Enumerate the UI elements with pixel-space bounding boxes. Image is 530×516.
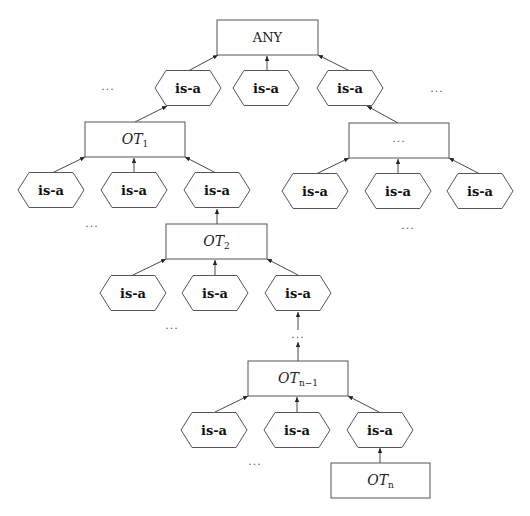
type-node-any: ANY [217,20,318,55]
is-a-relation-node: is-a [365,174,431,209]
is-a-relation-node: is-a [155,71,221,106]
type-hierarchy-diagram: ANY OT1 ... OT2 OTn−1 OTn is-ais-ais-ais… [0,0,530,516]
relation-label: is-a [285,286,312,301]
relation-label: is-a [175,81,202,96]
type-node-otn-1: OTn−1 [248,361,348,396]
type-node-other: ... [349,123,449,158]
edge-isa-to-any [188,55,218,71]
relation-label: is-a [201,423,228,438]
relation-label: is-a [302,184,329,199]
ellipsis: ... [165,319,179,332]
edge-isa-to-otn1 [348,396,379,412]
ellipsis: ... [430,82,444,95]
is-a-relation-node: is-a [100,276,166,311]
relation-label: is-a [121,183,148,198]
ellipsis: ... [401,219,415,232]
relation-label: is-a [367,423,394,438]
edge-isa-to-ot2 [267,259,298,275]
ellipsis: ... [248,455,262,468]
is-a-relation-node: is-a [233,71,299,106]
edge-isa-to-other [316,158,349,174]
type-node-ot1: OT1 [85,122,185,157]
is-a-relation-node: is-a [347,413,413,448]
is-a-relation-node: is-a [317,71,383,106]
relation-label: is-a [284,423,311,438]
type-label: ANY [252,30,283,45]
is-a-relation-node: is-a [184,173,250,208]
relation-label: is-a [467,184,494,199]
edge-isa-to-ot1 [52,157,85,173]
ellipsis-label: ... [392,132,406,145]
is-a-relation-node: is-a [447,174,513,209]
relation-label: is-a [202,286,229,301]
type-node-ot2: OT2 [166,224,267,259]
edge-isa-to-other [449,158,480,174]
relation-label: is-a [253,81,280,96]
is-a-relation-node: is-a [181,413,247,448]
edge-ot1-to-isa [135,106,167,122]
edge-other-to-isa [367,106,398,123]
is-a-relation-node: is-a [101,173,167,208]
ellipsis: ... [101,80,115,93]
edge-isa-to-ot1 [185,157,216,173]
edge-isa-to-any [318,55,350,71]
type-node-otn: OTn [331,463,430,498]
is-a-relation-node: is-a [182,276,248,311]
is-a-relation-node: is-a [264,413,330,448]
is-a-relation-node: is-a [282,174,348,209]
relation-label: is-a [204,183,231,198]
ellipsis: ... [291,328,305,341]
is-a-relation-node: is-a [265,276,331,311]
edge-isa-to-ot2 [133,259,166,275]
relation-label: is-a [38,183,65,198]
ellipsis: ... [85,217,99,230]
is-a-relation-node: is-a [18,173,84,208]
relation-label: is-a [120,286,147,301]
relation-label: is-a [385,184,412,199]
edge-isa-to-otn1 [215,396,248,412]
relation-label: is-a [337,81,364,96]
